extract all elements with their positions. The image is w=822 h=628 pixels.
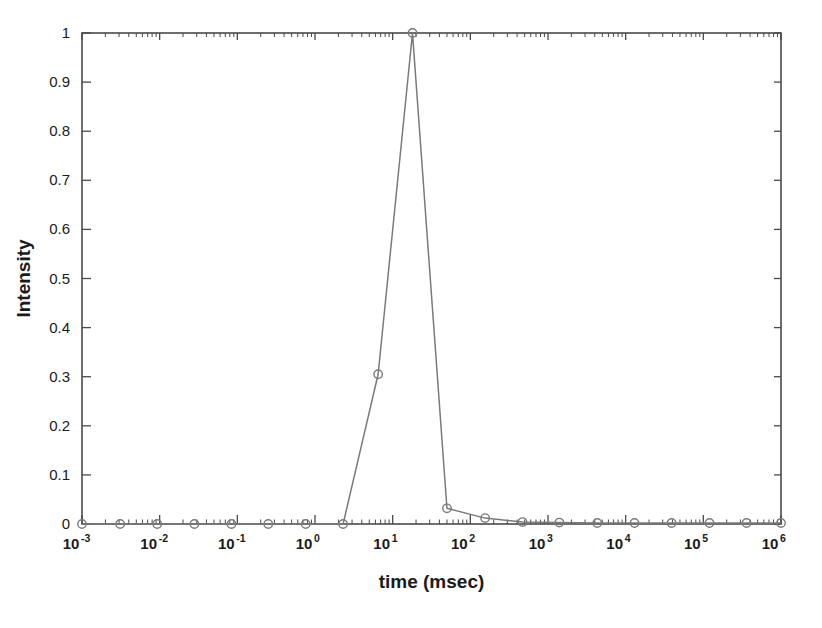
y-tick-label: 0.3 [49,368,70,385]
x-tick-label: 101 [373,532,397,552]
x-tick-mantissa: 10 [529,535,546,552]
x-tick-exponent: 6 [780,532,786,544]
x-tick-exponent: -2 [159,532,168,544]
x-tick-mantissa: 10 [63,535,80,552]
x-tick-exponent: 3 [547,532,553,544]
x-tick-label: 102 [451,532,475,552]
y-tick-label: 0.9 [49,73,70,90]
x-tick-mantissa: 10 [373,535,390,552]
x-tick-mantissa: 10 [296,535,313,552]
x-tick-label: 10-3 [63,532,91,552]
x-tick-label: 105 [684,532,708,552]
x-tick-exponent: 0 [314,532,320,544]
data-line [82,33,781,524]
x-tick-label: 104 [606,532,630,552]
y-tick-label: 0.7 [49,171,70,188]
y-tick-label: 0.4 [49,319,70,336]
x-tick-mantissa: 10 [606,535,623,552]
intensity-vs-time-chart: 10-310-210-110010110210310410510600.10.2… [0,0,822,628]
plot-frame [82,33,781,524]
y-tick-label: 0.2 [49,417,70,434]
y-tick-label: 1 [62,24,70,41]
y-tick-label: 0 [62,515,70,532]
x-tick-label: 106 [762,532,786,552]
x-tick-label: 10-1 [218,532,246,552]
x-tick-label: 103 [529,532,553,552]
x-tick-mantissa: 10 [451,535,468,552]
y-tick-label: 0.5 [49,270,70,287]
y-tick-label: 0.6 [49,220,70,237]
y-axis-title: Intensity [13,239,34,318]
x-tick-exponent: 2 [469,532,475,544]
x-tick-exponent: 1 [392,532,398,544]
chart-figure: 10-310-210-110010110210310410510600.10.2… [0,0,822,628]
x-tick-label: 100 [296,532,320,552]
x-tick-exponent: 5 [702,532,708,544]
x-tick-mantissa: 10 [684,535,701,552]
x-tick-mantissa: 10 [140,535,157,552]
x-axis-title: time (msec) [379,571,485,592]
y-tick-label: 0.1 [49,466,70,483]
x-tick-mantissa: 10 [218,535,235,552]
x-tick-label: 10-2 [140,532,168,552]
x-tick-exponent: 4 [625,532,631,544]
x-tick-exponent: -1 [236,532,245,544]
y-tick-label: 0.8 [49,122,70,139]
x-tick-exponent: -3 [81,532,90,544]
x-tick-mantissa: 10 [762,535,779,552]
